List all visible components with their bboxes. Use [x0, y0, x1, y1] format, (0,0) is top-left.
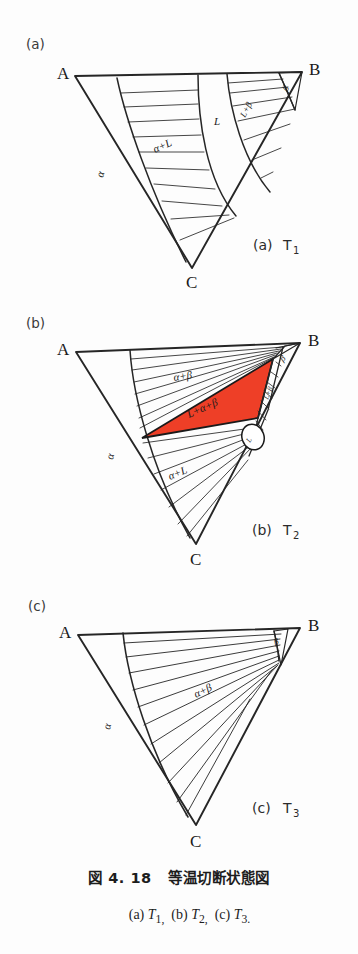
- region-label-L-a: L: [213, 115, 220, 127]
- panel-a-T1: A B C α α+L L L+β β (a) (a) T 1: [0, 0, 358, 310]
- temperature-tag-b: (b) T 2: [252, 522, 299, 541]
- caption-sub-b-number: 2,: [199, 913, 208, 926]
- panel-c-T3: A B C α α+β β (c) (c) T 3: [0, 595, 358, 870]
- liquid-island-b: [238, 421, 268, 453]
- caption-main-line: 図 4. 18 等温切断状態図: [0, 866, 358, 887]
- tie-lines-alpha-L-b: [143, 428, 254, 536]
- temp-tag-sub-c: 3: [293, 808, 299, 819]
- vertex-label-B-a: B: [309, 60, 320, 79]
- caption-sub-a-symbol: T: [148, 907, 156, 922]
- vertex-label-B-b: B: [308, 331, 319, 350]
- figure-page: A B C α α+L L L+β β (a) (a) T 1: [0, 0, 358, 954]
- region-label-beta-b: β: [277, 353, 288, 364]
- panel-b-T2: A B C α α+β L+α+β L L+β α+L β (b) (b) T …: [0, 310, 358, 595]
- temp-tag-symbol-b: T: [282, 522, 292, 538]
- caption-sub-line: (a) T1, (b) T2, (c) T3.: [0, 891, 358, 942]
- vertex-label-C-b: C: [190, 550, 201, 569]
- panel-tag-c: (c): [28, 598, 46, 614]
- caption-sub-b-tag: (b): [171, 907, 187, 922]
- region-label-alpha-a: α: [93, 170, 106, 179]
- temperature-tag-c: (c) T 3: [252, 800, 299, 819]
- region-label-alpha-b: α: [103, 452, 116, 460]
- temperature-tag-a: (a) T 1: [253, 237, 299, 256]
- vertex-label-B-c: B: [308, 616, 319, 635]
- figure-caption: 図 4. 18 等温切断状態図 (a) T1, (b) T2, (c) T3.: [0, 866, 358, 942]
- tie-lines-alpha-L-a: [121, 90, 234, 240]
- temp-tag-symbol-c: T: [282, 800, 292, 816]
- panel-tag-b: (b): [26, 315, 45, 331]
- vertex-label-A-c: A: [59, 623, 72, 642]
- region-label-alpha-plus-L-b: α+L: [166, 463, 188, 481]
- temp-tag-prefix-b: (b): [252, 522, 272, 538]
- vertex-label-C-a: C: [186, 273, 197, 292]
- caption-sub-a-number: 1,: [156, 913, 165, 926]
- vertex-label-A-b: A: [57, 340, 70, 359]
- region-label-beta-c: β: [271, 636, 280, 647]
- panel-tag-a: (a): [26, 36, 45, 52]
- vertex-label-C-c: C: [190, 832, 201, 851]
- region-label-alpha-plus-beta-b: α+β: [173, 368, 194, 383]
- caption-sub-a-tag: (a): [129, 907, 145, 922]
- temp-tag-prefix-c: (c): [252, 800, 271, 816]
- caption-sub-c-tag: (c): [215, 907, 231, 922]
- caption-sub-c-symbol: T: [234, 907, 242, 922]
- temp-tag-sub-b: 2: [293, 530, 299, 541]
- temp-tag-sub-a: 1: [293, 245, 299, 256]
- caption-sub-b-symbol: T: [191, 907, 199, 922]
- caption-sub-c-number: 3.: [242, 913, 251, 926]
- tie-lines-alpha-beta-c: [124, 634, 281, 815]
- vertex-label-A-a: A: [57, 64, 70, 83]
- region-label-alpha-c: α: [100, 722, 113, 730]
- boundary-alpha-c: [123, 633, 188, 817]
- temp-tag-prefix-a: (a): [253, 237, 273, 253]
- temp-tag-symbol-a: T: [282, 237, 292, 253]
